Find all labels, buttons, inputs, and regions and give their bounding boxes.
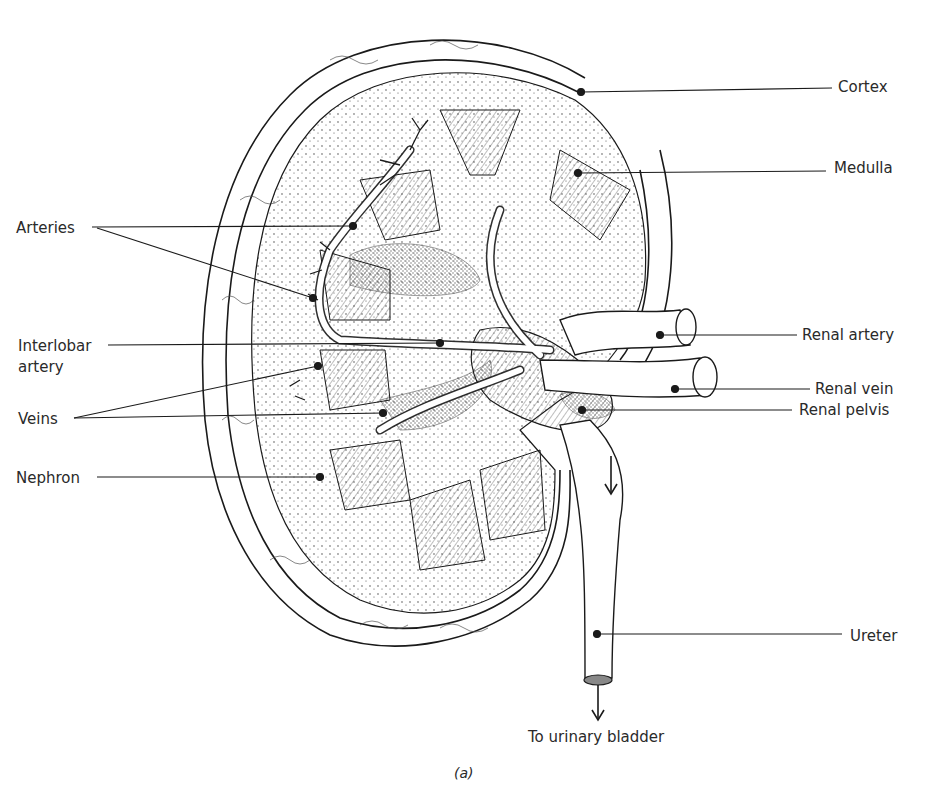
label-ureter: Ureter — [850, 627, 897, 646]
label-interlobar-line1: Interlobar — [18, 337, 91, 356]
ureter-opening — [584, 675, 612, 685]
figure-caption: (a) — [454, 764, 474, 783]
label-to-urinary-bladder: To urinary bladder — [528, 728, 664, 747]
kidney-illustration — [0, 0, 926, 806]
label-renal-vein: Renal vein — [815, 380, 893, 399]
ureter-tube — [560, 420, 623, 678]
renal-artery — [560, 309, 696, 355]
renal-vein — [540, 357, 717, 397]
label-interlobar-line2: artery — [18, 358, 64, 377]
label-veins: Veins — [18, 410, 58, 429]
label-arteries: Arteries — [16, 219, 75, 238]
label-medulla: Medulla — [834, 159, 893, 178]
kidney-diagram-figure: Cortex Medulla Arteries Interlobar arter… — [0, 0, 926, 806]
label-nephron: Nephron — [16, 469, 80, 488]
label-cortex: Cortex — [838, 78, 888, 97]
label-renal-pelvis: Renal pelvis — [799, 401, 889, 420]
leader-cortex — [581, 88, 832, 92]
label-renal-artery: Renal artery — [802, 326, 894, 345]
